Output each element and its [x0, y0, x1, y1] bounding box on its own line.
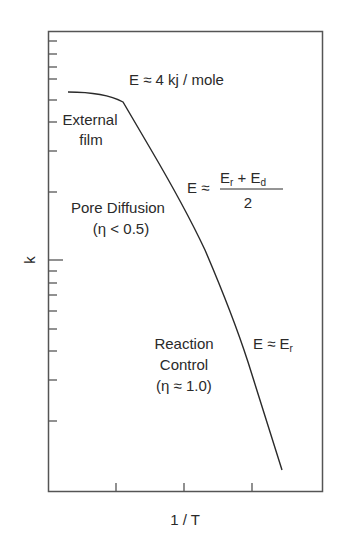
reaction-activation-label: E ≈ Er — [253, 335, 294, 354]
pore-activation-prefix: E ≈ — [187, 179, 209, 196]
external-film-label-line1: External — [62, 111, 117, 128]
rate-curve — [68, 92, 282, 470]
reaction-control-label-line3: (η ≈ 1.0) — [156, 377, 212, 394]
reaction-control-label-line2: Control — [160, 356, 208, 373]
x-axis-ticks — [116, 483, 252, 491]
external-film-label-line2: film — [79, 131, 102, 148]
arrhenius-regime-chart: 1 / T k E ≈ 4 kj / mole External film Po… — [0, 0, 340, 546]
plot-frame — [49, 32, 323, 492]
y-axis-ticks — [49, 41, 63, 421]
y-axis-label: k — [21, 256, 38, 264]
film-activation-label: E ≈ 4 kj / mole — [129, 71, 224, 88]
pore-activation-numerator: Er + Ed — [220, 169, 266, 188]
pore-diffusion-label-line1: Pore Diffusion — [71, 199, 165, 216]
pore-activation-denominator: 2 — [244, 194, 252, 211]
reaction-control-label-line1: Reaction — [154, 335, 213, 352]
pore-diffusion-label-line2: (η < 0.5) — [93, 220, 149, 237]
x-axis-label: 1 / T — [170, 511, 200, 528]
